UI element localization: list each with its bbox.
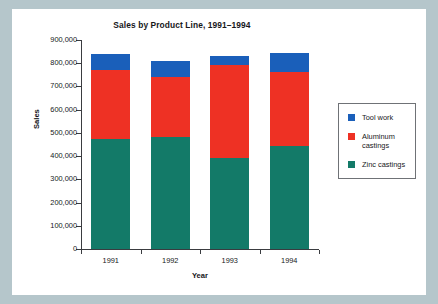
bar-segment [270,72,309,146]
bar-stack: 1994 [270,53,309,249]
x-tick-label: 1992 [151,256,190,265]
legend-item[interactable]: Zinc castings [339,160,415,170]
y-axis-label: Sales [32,109,41,129]
bar-segment [151,61,190,77]
y-axis-line [81,40,82,250]
chart-figure: Sales by Product Line, 1991–1994 Sales 0… [12,9,426,295]
bar-segment [210,158,249,249]
y-tick-label: 0 [73,244,77,253]
legend-label: Aluminum castings [362,132,411,151]
legend-item[interactable]: Tool work [339,113,415,123]
y-tick-label: 900,000 [50,35,77,44]
x-tick-label: 1993 [210,256,249,265]
chart-title: Sales by Product Line, 1991–1994 [12,20,352,30]
legend-swatch-icon [348,133,355,140]
x-tick-label: 1994 [270,256,309,265]
plot-area: 0100,000200,000300,000400,000500,000600,… [81,40,319,250]
x-tick-mark [141,250,142,254]
legend-label: Tool work [362,113,393,123]
x-tick-mark [319,250,320,254]
y-tick-label: 600,000 [50,105,77,114]
y-tick-label: 200,000 [50,198,77,207]
bar-segment [151,137,190,249]
x-tick-mark [260,250,261,254]
bar-segment [91,54,130,70]
legend-label: Zinc castings [362,160,405,170]
plot-frame: 0100,000200,000300,000400,000500,000600,… [81,40,319,250]
y-tick-label: 300,000 [50,174,77,183]
y-tick-label: 500,000 [50,128,77,137]
bar-segment [210,56,249,65]
x-tick-mark [81,250,82,254]
y-tick-label: 800,000 [50,58,77,67]
bar-segment [151,77,190,137]
bar-stack: 1993 [210,56,249,249]
bar-stack: 1991 [91,54,130,249]
legend-item[interactable]: Aluminum castings [339,132,415,151]
legend-swatch-icon [348,161,355,168]
chart-legend: Tool workAluminum castingsZinc castings [338,103,416,179]
bar-segment [91,70,130,139]
bar-segment [210,65,249,159]
y-tick-label: 100,000 [50,221,77,230]
x-axis-label: Year [81,271,319,280]
bar-segment [270,53,309,72]
legend-swatch-icon [348,114,355,121]
x-tick-mark [200,250,201,254]
y-tick-label: 700,000 [50,81,77,90]
x-tick-label: 1991 [91,256,130,265]
bar-segment [91,139,130,249]
y-tick-label: 400,000 [50,151,77,160]
bar-segment [270,146,309,249]
bar-stack: 1992 [151,61,190,249]
